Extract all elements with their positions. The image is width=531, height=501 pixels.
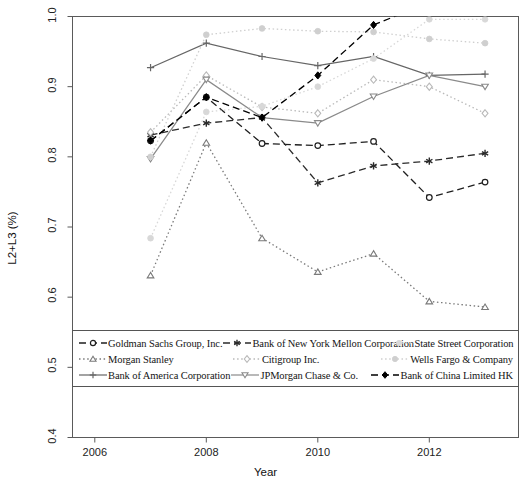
data-point-marker bbox=[147, 272, 154, 277]
data-point-marker bbox=[481, 70, 488, 77]
legend-key-icon bbox=[78, 352, 108, 366]
series-line bbox=[151, 28, 486, 156]
data-point-marker bbox=[482, 40, 488, 46]
legend-key-icon bbox=[232, 352, 262, 366]
y-axis-title: L2+L3 (%) bbox=[6, 193, 18, 283]
data-point-marker bbox=[90, 356, 96, 361]
legend-item-6[interactable]: State Street Corporation bbox=[384, 335, 513, 351]
legend-key-icon bbox=[370, 368, 400, 382]
legend-item-label: Bank of China Limited HK bbox=[400, 370, 513, 381]
legend-item-label: Citigroup Inc. bbox=[262, 354, 320, 365]
data-point-marker bbox=[371, 76, 377, 83]
legend-key-icon bbox=[222, 336, 252, 350]
legend-item-label: Goldman Sachs Group, Inc. bbox=[108, 338, 222, 349]
data-point-marker bbox=[371, 56, 377, 62]
chart-figure: 0.40.50.60.70.80.91.0 2006200820102012 L… bbox=[0, 0, 531, 501]
data-point-marker bbox=[314, 62, 321, 69]
data-point-marker bbox=[244, 356, 249, 363]
legend-item-0[interactable]: Goldman Sachs Group, Inc. bbox=[78, 335, 222, 351]
data-point-marker bbox=[259, 141, 265, 147]
y-tick-label: 0.4 bbox=[46, 421, 58, 451]
y-tick-label: 0.8 bbox=[46, 140, 58, 170]
series-line bbox=[151, 118, 486, 183]
legend-key-icon bbox=[384, 336, 414, 350]
data-point-marker bbox=[242, 373, 248, 378]
plot-canvas bbox=[0, 0, 531, 501]
data-point-marker bbox=[259, 103, 265, 109]
data-point-marker bbox=[203, 32, 209, 38]
data-point-marker bbox=[315, 84, 321, 90]
data-point-marker bbox=[397, 340, 402, 345]
data-point-marker bbox=[147, 64, 154, 71]
data-point-marker bbox=[482, 110, 488, 117]
data-point-marker bbox=[482, 84, 489, 89]
data-point-marker bbox=[371, 21, 377, 28]
y-tick-label: 0.9 bbox=[46, 70, 58, 100]
legend-item-8[interactable]: Bank of China Limited HK bbox=[370, 367, 513, 383]
legend-item-1[interactable]: Morgan Stanley bbox=[78, 351, 232, 367]
series-6 bbox=[148, 16, 488, 241]
series-line bbox=[151, 0, 486, 141]
series-7 bbox=[148, 26, 488, 160]
data-point-marker bbox=[426, 16, 432, 22]
data-point-marker bbox=[426, 36, 432, 42]
legend-row: Bank of America CorporationJPMorgan Chas… bbox=[78, 367, 513, 383]
legend-key-icon bbox=[380, 352, 410, 366]
data-point-marker bbox=[370, 94, 377, 99]
x-tick-label: 2012 bbox=[409, 446, 449, 458]
x-axis-title: Year bbox=[0, 466, 531, 478]
legend-key-icon bbox=[78, 368, 108, 382]
y-tick-label: 0.5 bbox=[46, 350, 58, 380]
legend-item-label: Wells Fargo & Company bbox=[410, 354, 513, 365]
data-point-marker bbox=[203, 109, 209, 115]
y-tick-label: 0.6 bbox=[46, 280, 58, 310]
legend-item-label: State Street Corporation bbox=[414, 338, 513, 349]
data-series-group bbox=[147, 0, 489, 309]
x-axis-ticks bbox=[95, 438, 430, 443]
x-tick-label: 2010 bbox=[298, 446, 338, 458]
data-point-marker bbox=[90, 372, 97, 379]
legend-row: Morgan StanleyCitigroup Inc.Wells Fargo … bbox=[78, 351, 513, 367]
data-point-marker bbox=[259, 26, 265, 32]
data-point-marker bbox=[259, 235, 266, 240]
legend-row: Goldman Sachs Group, Inc.Bank of New Yor… bbox=[78, 335, 513, 351]
series-1 bbox=[147, 140, 488, 310]
data-point-marker bbox=[383, 372, 388, 379]
data-point-marker bbox=[314, 269, 321, 274]
series-line bbox=[151, 19, 486, 238]
legend-item-2[interactable]: Bank of America Corporation bbox=[78, 367, 230, 383]
data-point-marker bbox=[482, 179, 488, 185]
x-tick-label: 2006 bbox=[75, 446, 115, 458]
data-point-marker bbox=[370, 251, 377, 256]
data-point-marker bbox=[203, 140, 210, 145]
data-point-marker bbox=[482, 16, 488, 22]
data-point-marker bbox=[315, 143, 321, 149]
y-tick-label: 1.0 bbox=[46, 0, 58, 30]
legend-item-5[interactable]: JPMorgan Chase & Co. bbox=[230, 367, 370, 383]
legend-item-7[interactable]: Wells Fargo & Company bbox=[380, 351, 513, 367]
chart-legend: Goldman Sachs Group, Inc.Bank of New Yor… bbox=[72, 330, 519, 387]
data-point-marker bbox=[371, 29, 377, 35]
legend-item-label: JPMorgan Chase & Co. bbox=[260, 370, 358, 381]
y-tick-label: 0.7 bbox=[46, 210, 58, 240]
data-point-marker bbox=[258, 53, 265, 60]
data-point-marker bbox=[426, 195, 432, 201]
data-point-marker bbox=[148, 235, 154, 241]
data-point-marker bbox=[315, 110, 321, 117]
legend-key-icon bbox=[230, 368, 260, 382]
data-point-marker bbox=[393, 356, 398, 361]
data-point-marker bbox=[148, 154, 154, 160]
data-point-marker bbox=[315, 28, 321, 34]
legend-key-icon bbox=[78, 336, 108, 350]
x-tick-label: 2008 bbox=[186, 446, 226, 458]
series-line bbox=[151, 143, 486, 307]
data-point-marker bbox=[426, 0, 432, 6]
legend-item-label: Bank of America Corporation bbox=[108, 370, 230, 381]
data-point-marker bbox=[90, 340, 95, 345]
legend-item-3[interactable]: Bank of New York Mellon Corporation bbox=[222, 335, 384, 351]
data-point-marker bbox=[426, 83, 432, 90]
legend-item-4[interactable]: Citigroup Inc. bbox=[232, 351, 380, 367]
data-point-marker bbox=[371, 139, 377, 145]
legend-item-label: Morgan Stanley bbox=[108, 354, 174, 365]
